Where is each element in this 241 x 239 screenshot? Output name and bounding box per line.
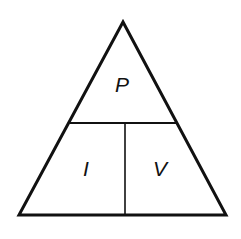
label-power: P [115,73,129,96]
label-current: I [83,157,89,180]
triangle-outline [19,22,226,215]
power-formula-triangle: P I V [0,0,241,239]
label-voltage: V [153,157,169,180]
